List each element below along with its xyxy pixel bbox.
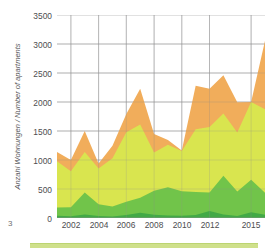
x-tick-2012: 2012 bbox=[201, 220, 220, 230]
x-axis-tick-labels: 2002 2004 2006 2008 2010 2012 2015 bbox=[0, 0, 272, 252]
x-tick-2006: 2006 bbox=[117, 220, 136, 230]
x-tick-2002: 2002 bbox=[62, 220, 81, 230]
legend-strip bbox=[30, 243, 258, 248]
x-tick-2015: 2015 bbox=[242, 220, 261, 230]
x-tick-2010: 2010 bbox=[173, 220, 192, 230]
x-tick-2008: 2008 bbox=[145, 220, 164, 230]
figure-stacked-area-chart: Anzahl Wohnungen / Number of apartments … bbox=[0, 0, 272, 252]
x-tick-2004: 2004 bbox=[90, 220, 109, 230]
page-number: 3 bbox=[8, 219, 12, 228]
